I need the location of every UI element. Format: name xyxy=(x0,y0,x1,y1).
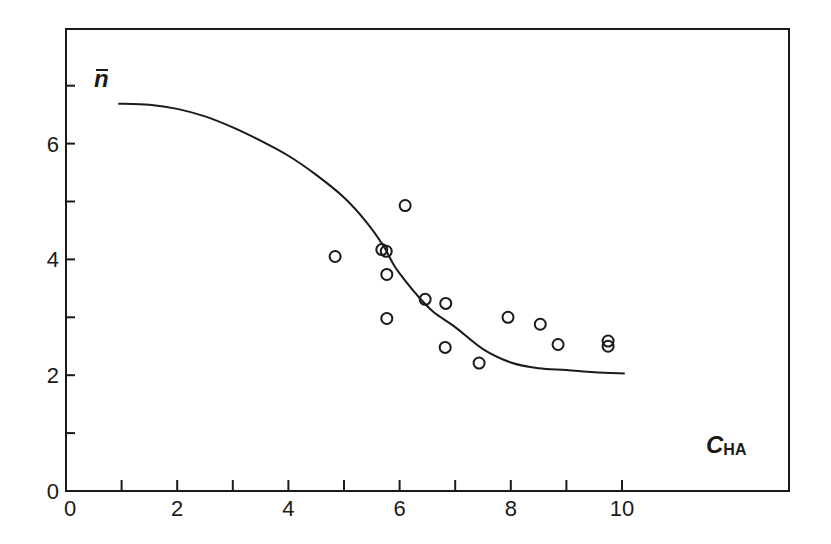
y-tick-label: 6 xyxy=(47,132,59,157)
data-point-marker xyxy=(440,298,451,309)
x-tick-label: 10 xyxy=(610,496,634,521)
data-point-marker xyxy=(553,339,564,350)
x-axis-title-text: CHA xyxy=(706,431,747,458)
plot-border xyxy=(66,29,789,491)
data-point-marker xyxy=(535,319,546,330)
x-axis-title: CHA xyxy=(706,431,747,458)
fitted-curve xyxy=(118,104,625,374)
fitted-curve-path xyxy=(118,104,625,374)
x-axis-ticks: 0246810 xyxy=(64,480,634,521)
plot-frame xyxy=(66,29,789,491)
y-tick-label: 4 xyxy=(47,247,59,272)
x-tick-label: 0 xyxy=(64,496,76,521)
scatter-chart: 0246810 0246 n CHA xyxy=(0,0,831,544)
data-point-marker xyxy=(440,342,451,353)
data-point-marker xyxy=(603,341,614,352)
y-tick-label: 0 xyxy=(47,479,59,504)
y-axis-ticks: 0246 xyxy=(47,86,75,504)
y-axis-title-text: n xyxy=(94,65,109,92)
data-point-marker xyxy=(381,313,392,324)
data-point-marker xyxy=(330,251,341,262)
x-tick-label: 8 xyxy=(505,496,517,521)
x-tick-label: 6 xyxy=(393,496,405,521)
data-point-marker xyxy=(474,358,485,369)
y-axis-title: n xyxy=(94,65,109,92)
data-point-marker xyxy=(420,294,431,305)
y-tick-label: 2 xyxy=(47,363,59,388)
data-points xyxy=(330,200,614,368)
x-tick-label: 2 xyxy=(171,496,183,521)
x-tick-label: 4 xyxy=(282,496,294,521)
data-point-marker xyxy=(400,200,411,211)
data-point-marker xyxy=(381,269,392,280)
data-point-marker xyxy=(381,246,392,257)
data-point-marker xyxy=(503,312,514,323)
